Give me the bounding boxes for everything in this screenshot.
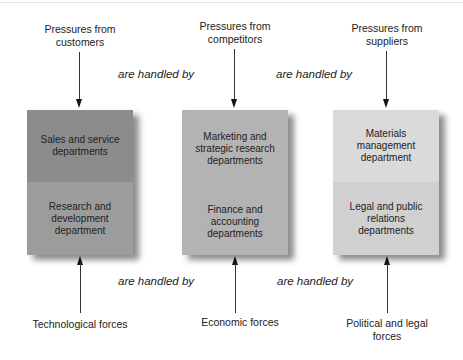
box-competitors-economic: Marketing and strategic research departm… — [182, 110, 288, 255]
pressure-suppliers-label: Pressures from suppliers — [337, 22, 437, 47]
arrow-customers-line — [79, 52, 80, 102]
arrow-technology-line — [80, 263, 81, 313]
handled-by-label-bottom-right: are handled by — [277, 275, 353, 287]
arrow-down-icon — [383, 99, 389, 108]
box-bottom-legal: Legal and public relations departments — [333, 182, 439, 255]
arrow-economic-line — [235, 263, 236, 313]
sales-service-label: Sales and service departments — [33, 134, 127, 158]
box-top-materials: Materials management department — [333, 110, 439, 182]
technological-forces-label: Technological forces — [30, 318, 130, 331]
box-bottom-rnd: Research and development department — [27, 182, 133, 255]
handled-by-label-bottom-left: are handled by — [118, 275, 194, 287]
box-suppliers-political: Materials management department Legal an… — [333, 110, 439, 255]
materials-label: Materials management department — [339, 128, 433, 164]
finance-label: Finance and accounting departments — [188, 204, 282, 240]
arrow-down-icon — [231, 99, 237, 108]
handled-by-label-top-right: are handled by — [276, 68, 352, 80]
handled-by-label-top-left: are handled by — [118, 68, 194, 80]
marketing-label: Marketing and strategic research departm… — [188, 131, 282, 167]
top-divider — [0, 2, 463, 3]
arrow-down-icon — [76, 99, 82, 108]
economic-forces-label: Economic forces — [185, 316, 295, 329]
box-top-marketing: Marketing and strategic research departm… — [182, 110, 288, 188]
legal-label: Legal and public relations departments — [339, 201, 433, 237]
pressure-competitors-label: Pressures from competitors — [185, 20, 285, 45]
arrow-suppliers-line — [386, 51, 387, 102]
arrow-competitors-line — [234, 49, 235, 102]
box-bottom-finance: Finance and accounting departments — [182, 188, 288, 255]
arrow-political-line — [387, 263, 388, 313]
box-top-sales: Sales and service departments — [27, 110, 133, 182]
box-customers-technology: Sales and service departments Research a… — [27, 110, 133, 255]
pressure-customers-label: Pressures from customers — [30, 23, 130, 48]
rnd-label: Research and development department — [33, 201, 127, 237]
political-legal-forces-label: Political and legal forces — [337, 317, 437, 342]
